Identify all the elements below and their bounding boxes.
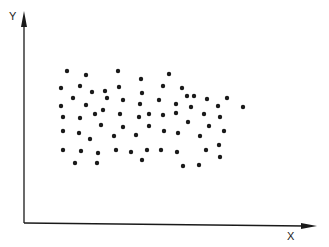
data-point [202, 112, 206, 116]
data-point [71, 96, 75, 100]
data-point [61, 148, 65, 152]
data-point [103, 89, 107, 93]
data-point [176, 131, 180, 135]
data-points [59, 69, 245, 168]
data-point [192, 94, 196, 98]
data-point [161, 113, 165, 117]
data-point [207, 124, 211, 128]
data-point [78, 116, 82, 120]
data-point [174, 111, 178, 115]
data-point [95, 161, 99, 165]
data-point [116, 69, 120, 73]
data-point [137, 115, 141, 119]
x-axis [24, 223, 317, 229]
data-point [145, 148, 149, 152]
data-point [175, 150, 179, 154]
data-point [84, 73, 88, 77]
data-point [79, 149, 83, 153]
data-point [197, 163, 201, 167]
data-point [161, 84, 165, 88]
data-point [99, 123, 103, 127]
data-point [181, 164, 185, 168]
data-point [205, 97, 209, 101]
data-point [112, 134, 116, 138]
data-point [204, 148, 208, 152]
data-point [105, 96, 109, 100]
data-point [88, 137, 92, 141]
data-point [139, 77, 143, 81]
data-point [121, 98, 125, 102]
data-point [73, 161, 77, 165]
data-point [121, 125, 125, 129]
data-point [78, 84, 82, 88]
data-point [241, 105, 245, 109]
data-point [117, 85, 121, 89]
data-point [198, 134, 202, 138]
data-point [162, 129, 166, 133]
data-point [189, 105, 193, 109]
data-point [218, 115, 222, 119]
data-point [225, 96, 229, 100]
data-point [114, 148, 118, 152]
data-point [96, 151, 100, 155]
data-point [185, 94, 189, 98]
y-axis-arrowhead-icon [21, 11, 27, 27]
y-axis-label: Y [9, 10, 16, 22]
data-point [134, 133, 138, 137]
data-point [140, 158, 144, 162]
data-point [159, 148, 163, 152]
data-point [157, 98, 161, 102]
data-point [93, 112, 97, 116]
data-point [77, 131, 81, 135]
data-point [167, 72, 171, 76]
data-point [147, 124, 151, 128]
data-point [218, 155, 222, 159]
x-axis-arrowhead-icon [301, 223, 317, 229]
data-point [138, 102, 142, 106]
data-point [118, 112, 122, 116]
scatter-plot [0, 0, 329, 247]
data-point [174, 102, 178, 106]
data-point [65, 69, 69, 73]
data-point [180, 86, 184, 90]
data-point [90, 90, 94, 94]
y-axis [21, 11, 27, 223]
data-point [59, 86, 63, 90]
x-axis-label: X [287, 230, 294, 242]
data-point [216, 104, 220, 108]
data-point [140, 91, 144, 95]
data-point [222, 129, 226, 133]
data-point [59, 104, 63, 108]
data-point [84, 103, 88, 107]
data-point [61, 115, 65, 119]
data-point [129, 150, 133, 154]
data-point [61, 129, 65, 133]
data-point [186, 120, 190, 124]
data-point [147, 112, 151, 116]
data-point [101, 108, 105, 112]
data-point [217, 143, 221, 147]
